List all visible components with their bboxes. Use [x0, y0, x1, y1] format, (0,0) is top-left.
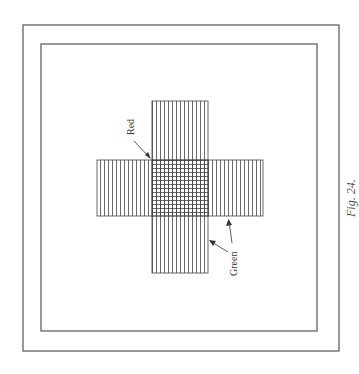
figure-canvas: Red Green Fig. 24.	[0, 0, 359, 374]
center-overlap-grid	[152, 160, 208, 216]
red-label: Red	[125, 119, 136, 135]
green-arrowhead-up-icon	[226, 219, 232, 226]
red-arrowhead-icon	[145, 152, 151, 159]
green-label-group: Green	[209, 219, 239, 276]
cross-figure	[97, 101, 263, 273]
green-arrowhead-left-icon	[209, 240, 216, 246]
green-label: Green	[228, 252, 239, 276]
figure-caption: Fig. 24.	[344, 179, 358, 218]
red-label-group: Red	[125, 119, 151, 159]
